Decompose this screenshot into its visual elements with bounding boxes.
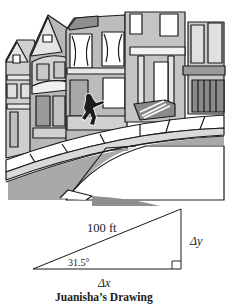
right-angle-marker	[172, 261, 181, 269]
juanisha-figure: 100 ft 31.5° Δy Δx Juanisha’s Drawing	[0, 0, 230, 305]
right-triangle	[33, 209, 181, 269]
delta-y-label: Δy	[189, 234, 203, 248]
angle-label: 31.5°	[68, 257, 90, 268]
hypotenuse-label: 100 ft	[87, 221, 117, 235]
triangle-diagram: 100 ft 31.5° Δy Δx Juanisha’s Drawing	[33, 209, 203, 304]
house-second	[30, 15, 70, 158]
house-fourth	[125, 12, 185, 122]
house-right	[183, 22, 225, 114]
street-illustration	[6, 12, 225, 206]
figure-caption: Juanisha’s Drawing	[55, 291, 153, 304]
delta-x-label: Δx	[97, 276, 111, 290]
